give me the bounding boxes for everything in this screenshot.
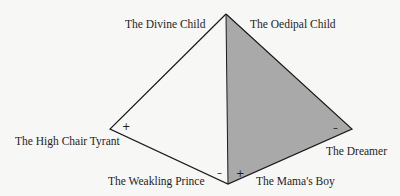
right-face-shaded (226, 14, 352, 184)
label-high-chair-tyrant: The High Chair Tyrant (15, 136, 120, 148)
left-face-unshaded (110, 14, 228, 184)
label-divine-child: The Divine Child (125, 19, 206, 31)
pyramid-diagram: The Divine Child The Oedipal Child The H… (0, 0, 400, 196)
sign-dreamer: – (333, 123, 338, 133)
sign-high-chair-tyrant: + (122, 122, 130, 132)
sign-mamas-boy: + (236, 169, 244, 179)
label-dreamer: The Dreamer (326, 146, 387, 158)
label-oedipal-child: The Oedipal Child (250, 19, 336, 31)
sign-weakling-prince: – (217, 168, 222, 178)
label-weakling-prince: The Weakling Prince (108, 176, 205, 188)
label-mamas-boy: The Mama's Boy (256, 176, 335, 188)
